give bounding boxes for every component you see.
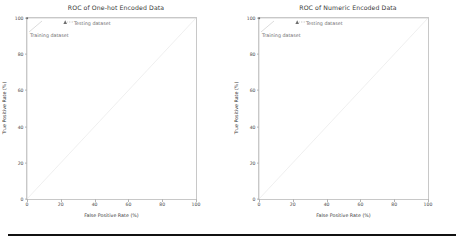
ytick-mark	[25, 90, 28, 91]
yaxis-label-one-hot: True Positive Rate (%)	[2, 82, 7, 135]
plot-inner-numeric	[259, 18, 428, 199]
ytick-label: 100	[247, 16, 256, 21]
roc-figure: ROC of One-hot Encoded Data 100 80 60 40…	[0, 0, 464, 243]
ytick-label: 0	[253, 197, 256, 202]
xtick-label: 40	[324, 202, 330, 207]
xtick-mark	[27, 199, 28, 202]
ytick-mark	[257, 18, 260, 19]
xtick-mark	[259, 199, 260, 202]
plot-area-numeric: 100 80 60 40 20 0 0 20 40 60 80 100	[258, 17, 429, 200]
ytick-label: 60	[250, 88, 256, 93]
xtick-mark	[360, 199, 361, 202]
ytick-mark	[25, 162, 28, 163]
xtick-label: 20	[290, 202, 296, 207]
roc-curves-one-hot	[27, 18, 196, 199]
plot-inner-one-hot	[27, 18, 196, 199]
xtick-label: 100	[192, 202, 201, 207]
ytick-label: 80	[250, 52, 256, 57]
annotation-training-label: Training dataset	[262, 33, 301, 38]
xtick-label: 0	[26, 202, 29, 207]
ytick-mark	[257, 162, 260, 163]
ytick-label: 40	[18, 124, 24, 129]
xtick-mark	[61, 199, 62, 202]
ytick-label: 20	[250, 160, 256, 165]
xtick-mark	[394, 199, 395, 202]
xaxis-label-one-hot: False Positive Rate (%)	[26, 213, 197, 218]
ytick-label: 60	[18, 88, 24, 93]
roc-curves-numeric	[259, 18, 428, 199]
xtick-label: 100	[424, 202, 433, 207]
annotation-testing-label: Testing dataset	[306, 21, 343, 26]
xtick-mark	[128, 199, 129, 202]
xtick-label: 0	[258, 202, 261, 207]
yaxis-label-numeric: True Positive Rate (%)	[234, 82, 239, 135]
xtick-label: 20	[58, 202, 64, 207]
footer-divider	[8, 234, 456, 236]
xtick-mark	[428, 199, 429, 202]
ytick-mark	[25, 126, 28, 127]
chart-title-one-hot: ROC of One-hot Encoded Data	[0, 4, 232, 11]
ytick-mark	[257, 90, 260, 91]
xaxis-label-numeric: False Positive Rate (%)	[258, 213, 429, 218]
annotation-training-label: Training dataset	[30, 33, 69, 38]
ytick-label: 20	[18, 160, 24, 165]
ytick-mark	[257, 126, 260, 127]
ytick-mark	[257, 54, 260, 55]
chance-line	[27, 18, 196, 199]
xtick-label: 60	[357, 202, 363, 207]
chart-panel-one-hot: ROC of One-hot Encoded Data 100 80 60 40…	[0, 0, 232, 228]
ytick-label: 80	[18, 52, 24, 57]
xtick-label: 60	[125, 202, 131, 207]
xtick-label: 80	[159, 202, 165, 207]
xtick-label: 80	[391, 202, 397, 207]
ytick-label: 0	[21, 197, 24, 202]
annotation-testing-label: Testing dataset	[74, 21, 111, 26]
chart-title-numeric: ROC of Numeric Encoded Data	[232, 4, 464, 11]
ytick-mark	[25, 18, 28, 19]
xtick-mark	[196, 199, 197, 202]
chart-panel-numeric: ROC of Numeric Encoded Data 100 80 60 40…	[232, 0, 464, 228]
xtick-label: 40	[92, 202, 98, 207]
xtick-mark	[162, 199, 163, 202]
ytick-label: 40	[250, 124, 256, 129]
xtick-mark	[293, 199, 294, 202]
chance-line	[259, 18, 428, 199]
xtick-mark	[95, 199, 96, 202]
plot-area-one-hot: 100 80 60 40 20 0 0 20 40 60 80 100	[26, 17, 197, 200]
xtick-mark	[327, 199, 328, 202]
ytick-label: 100	[15, 16, 24, 21]
ytick-mark	[25, 54, 28, 55]
